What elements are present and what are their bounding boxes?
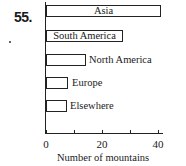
x-tick-label-40: 40 [153, 138, 164, 150]
x-tick-label-20: 20 [97, 138, 108, 150]
bar-label-asia: Asia [47, 6, 160, 16]
stray-dot [9, 41, 11, 43]
bar-elsewhere [46, 100, 67, 112]
x-tick-40 [158, 130, 159, 134]
x-tick-30 [130, 130, 131, 134]
bar-north-america [46, 54, 86, 66]
bar-europe [46, 77, 68, 89]
bar-label-europe: Europe [72, 77, 102, 88]
bar-label-south-america: South America [47, 31, 122, 41]
bar-label-north-america: North America [89, 54, 152, 65]
x-tick-20 [102, 130, 103, 134]
x-axis-label: Number of mountains [57, 152, 149, 163]
question-number: 55. [14, 9, 32, 25]
bar-label-elsewhere: Elsewhere [70, 100, 114, 111]
bar-asia: Asia [46, 5, 161, 17]
x-tick-0 [46, 130, 47, 134]
y-axis-line [45, 2, 46, 134]
bar-south-america: South America [46, 30, 123, 42]
x-axis-line [45, 133, 163, 134]
x-tick-10 [74, 130, 75, 134]
x-tick-label-0: 0 [43, 138, 49, 150]
